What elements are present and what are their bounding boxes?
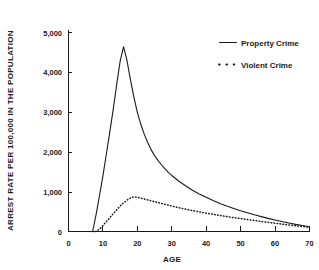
property-crime-line: [93, 47, 310, 232]
y-tick-label: 5,000: [43, 29, 62, 38]
y-tick-label: 0: [58, 228, 62, 237]
arrest-rate-by-age-chart: ARREST RATE PER 100,000 IN THE POPULATIO…: [0, 0, 319, 270]
y-tick-labels: 0 1,000 2,000 3,000 4,000 5,000: [43, 29, 62, 237]
x-tick-label: 50: [236, 239, 244, 248]
chart-legend: Property Crime Violent Crime: [219, 39, 299, 70]
x-tick-label: 10: [99, 239, 107, 248]
x-tick-labels: 0 10 20 30 40 50 60 70: [66, 239, 313, 248]
x-tick-label: 40: [202, 239, 210, 248]
x-axis-ticks: [69, 226, 310, 231]
legend-label-property-crime: Property Crime: [241, 39, 299, 48]
y-tick-label: 4,000: [43, 68, 62, 77]
violent-crime-line: [93, 197, 310, 232]
x-tick-label: 30: [168, 239, 176, 248]
x-axis-title: AGE: [163, 255, 182, 264]
x-tick-label: 70: [305, 239, 313, 248]
chart-canvas: ARREST RATE PER 100,000 IN THE POPULATIO…: [0, 0, 319, 270]
x-tick-label: 60: [271, 239, 279, 248]
y-tick-label: 3,000: [43, 108, 62, 117]
x-tick-label: 0: [66, 239, 70, 248]
legend-label-violent-crime: Violent Crime: [241, 61, 293, 70]
y-axis-title: ARREST RATE PER 100,000 IN THE POPULATIO…: [6, 30, 15, 231]
y-tick-label: 2,000: [43, 148, 62, 157]
y-tick-label: 1,000: [43, 188, 62, 197]
x-tick-label: 20: [133, 239, 141, 248]
